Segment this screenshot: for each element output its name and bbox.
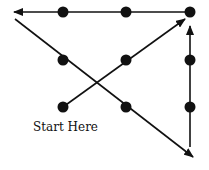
dot-2-1 — [58, 55, 69, 66]
dot-1-1 — [58, 7, 69, 18]
dot-1-2 — [121, 7, 132, 18]
dot-3-2 — [121, 102, 132, 113]
start-here-label: Start Here — [33, 120, 98, 134]
dot-1-3 — [185, 7, 196, 18]
dot-3-1 — [58, 102, 69, 113]
puzzle-svg — [0, 0, 209, 170]
path-line-3 — [15, 19, 193, 157]
dot-2-3 — [185, 55, 196, 66]
dot-3-3 — [185, 102, 196, 113]
nine-dots-diagram: Start Here — [0, 0, 209, 170]
dot-2-2 — [121, 55, 132, 66]
